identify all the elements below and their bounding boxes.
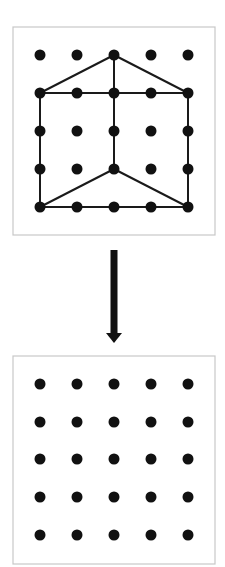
down-arrow-icon <box>106 250 122 343</box>
grid-peg <box>183 530 194 541</box>
grid-peg <box>146 454 157 465</box>
grid-peg <box>146 164 157 175</box>
grid-peg <box>183 492 194 503</box>
grid-peg <box>72 454 83 465</box>
grid-peg <box>72 417 83 428</box>
grid-peg <box>72 492 83 503</box>
grid-peg <box>72 88 83 99</box>
grid-peg <box>72 202 83 213</box>
top-geoboard <box>13 27 215 235</box>
bottom-geoboard <box>13 356 215 564</box>
grid-peg <box>146 50 157 61</box>
grid-peg <box>35 164 46 175</box>
grid-peg <box>35 417 46 428</box>
geoboard-diagram <box>0 0 225 567</box>
grid-peg <box>183 202 194 213</box>
grid-peg <box>183 417 194 428</box>
grid-peg <box>183 454 194 465</box>
grid-peg <box>35 379 46 390</box>
grid-peg <box>72 126 83 137</box>
grid-peg <box>72 379 83 390</box>
grid-peg <box>146 417 157 428</box>
grid-peg <box>109 417 120 428</box>
grid-peg <box>72 530 83 541</box>
grid-peg <box>183 164 194 175</box>
grid-peg <box>35 50 46 61</box>
grid-peg <box>183 379 194 390</box>
grid-peg <box>109 88 120 99</box>
grid-peg <box>183 88 194 99</box>
grid-peg <box>146 492 157 503</box>
grid-peg <box>35 492 46 503</box>
grid-peg <box>35 126 46 137</box>
grid-peg <box>35 88 46 99</box>
grid-peg <box>109 202 120 213</box>
grid-peg <box>35 202 46 213</box>
grid-peg <box>183 50 194 61</box>
grid-peg <box>109 126 120 137</box>
grid-peg <box>146 202 157 213</box>
grid-peg <box>72 164 83 175</box>
grid-peg <box>109 454 120 465</box>
grid-peg <box>109 492 120 503</box>
grid-peg <box>146 88 157 99</box>
grid-peg <box>35 454 46 465</box>
grid-peg <box>35 530 46 541</box>
grid-peg <box>109 379 120 390</box>
grid-peg <box>109 530 120 541</box>
arrow-head <box>106 333 122 343</box>
grid-peg <box>72 50 83 61</box>
grid-peg <box>109 164 120 175</box>
grid-peg <box>146 530 157 541</box>
arrow-shaft <box>111 250 118 335</box>
grid-peg <box>183 126 194 137</box>
grid-peg <box>146 126 157 137</box>
grid-peg <box>146 379 157 390</box>
grid-peg <box>109 50 120 61</box>
